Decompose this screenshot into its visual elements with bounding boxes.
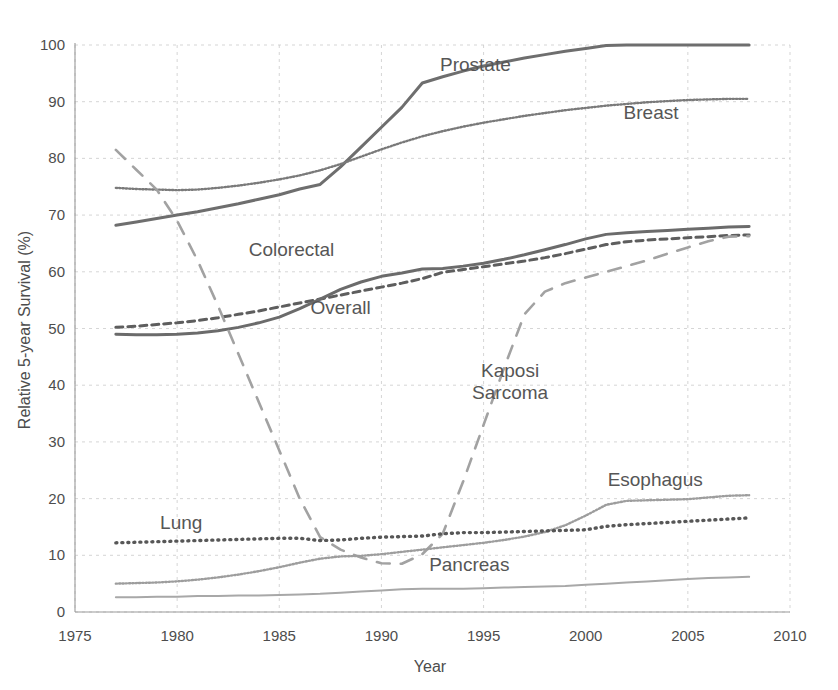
series-line-lung xyxy=(116,518,749,543)
y-tick-label: 100 xyxy=(40,36,65,53)
x-tick-label: 1980 xyxy=(160,627,193,644)
y-tick-label: 60 xyxy=(48,263,65,280)
y-tick-label: 0 xyxy=(57,603,65,620)
y-tick-labels: 0102030405060708090100 xyxy=(40,36,65,620)
y-tick-label: 70 xyxy=(48,206,65,223)
y-tick-label: 30 xyxy=(48,433,65,450)
x-axis-title: Year xyxy=(414,658,447,675)
series-group xyxy=(116,45,749,597)
y-axis-title: Relative 5-year Survival (%) xyxy=(16,231,33,429)
x-tick-label: 1985 xyxy=(263,627,296,644)
series-label-prostate: Prostate xyxy=(440,54,511,75)
chart-container: 0102030405060708090100 19751980198519901… xyxy=(0,0,838,690)
series-label-line: Sarcoma xyxy=(472,382,548,403)
series-line-prostate xyxy=(116,45,749,225)
x-tick-labels: 19751980198519901995200020052010 xyxy=(58,627,806,644)
series-label-kaposi-sarcoma: KaposiSarcoma xyxy=(472,360,548,403)
survival-line-chart: 0102030405060708090100 19751980198519901… xyxy=(0,0,838,690)
x-tick-label: 2000 xyxy=(569,627,602,644)
y-tick-label: 20 xyxy=(48,490,65,507)
x-tick-label: 2010 xyxy=(773,627,806,644)
y-tick-label: 90 xyxy=(48,93,65,110)
series-label-esophagus: Esophagus xyxy=(608,469,703,490)
series-line-kaposi-sarcoma xyxy=(116,150,749,564)
series-line-pancreas xyxy=(116,577,749,597)
series-label-colorectal: Colorectal xyxy=(249,239,335,260)
series-label-line: Kaposi xyxy=(481,360,539,381)
y-tick-label: 40 xyxy=(48,376,65,393)
x-tick-label: 1975 xyxy=(58,627,91,644)
x-tick-label: 2005 xyxy=(671,627,704,644)
series-label-lung: Lung xyxy=(160,512,202,533)
y-tick-label: 50 xyxy=(48,320,65,337)
y-tick-label: 10 xyxy=(48,546,65,563)
x-tick-label: 1990 xyxy=(365,627,398,644)
series-label-pancreas: Pancreas xyxy=(429,554,509,575)
series-label-breast: Breast xyxy=(624,102,680,123)
x-tick-label: 1995 xyxy=(467,627,500,644)
series-line-colorectal xyxy=(116,235,749,327)
y-tick-label: 80 xyxy=(48,149,65,166)
series-label-overall: Overall xyxy=(310,297,370,318)
